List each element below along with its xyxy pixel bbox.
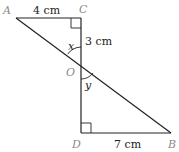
right-angle-marker-D bbox=[81, 123, 91, 133]
point-label-B: B bbox=[167, 138, 176, 151]
right-angle-marker-C bbox=[71, 18, 81, 28]
angle-label-y: y bbox=[84, 79, 92, 92]
point-label-C: C bbox=[79, 3, 88, 16]
point-label-A: A bbox=[2, 4, 11, 17]
point-label-O: O bbox=[66, 66, 75, 79]
angle-label-x: x bbox=[68, 40, 75, 53]
diagram-canvas: A C O D B 4 cm 3 cm 7 cm x y bbox=[0, 0, 179, 152]
point-label-D: D bbox=[71, 138, 81, 151]
measurement-AC: 4 cm bbox=[33, 4, 61, 17]
measurement-DB: 7 cm bbox=[114, 138, 142, 151]
measurement-CO: 3 cm bbox=[85, 35, 113, 48]
